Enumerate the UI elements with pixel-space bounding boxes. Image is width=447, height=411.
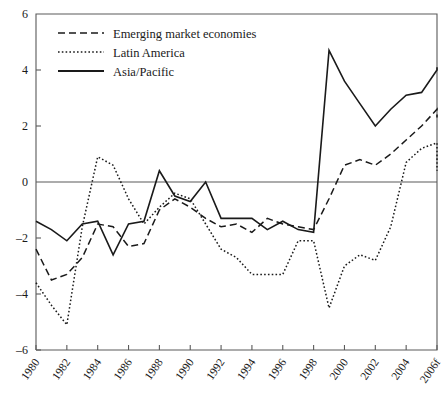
series-line-1 [36,109,437,280]
legend-label-3: Asia/Pacific [113,65,175,79]
y-tick-label: 0 [22,175,28,189]
x-tick-label: 2002 [358,356,381,382]
x-tick-label: 1998 [296,356,319,382]
x-tick-label: 1986 [111,356,134,382]
y-tick-label: 2 [22,119,28,133]
x-tick-label: 1988 [142,356,165,382]
data-series-group [36,50,437,324]
x-tick-label: 2006f [417,356,442,385]
x-tick-label: 2000 [327,356,350,382]
chart-figure: 6420–2–4–6 19801982198419861988199019921… [0,0,447,411]
y-tick-label: 4 [22,63,28,77]
chart-legend: Emerging market economiesLatin AmericaAs… [58,27,257,79]
legend-label-1: Emerging market economies [113,27,257,41]
y-tick-label: –2 [15,231,28,245]
x-tick-label: 1984 [80,356,103,382]
x-tick-label: 1980 [19,356,42,382]
line-chart-svg: 6420–2–4–6 19801982198419861988199019921… [0,0,447,411]
legend-label-2: Latin America [113,46,185,60]
x-tick-label: 1982 [49,356,72,382]
x-tick-label: 2004 [389,356,412,382]
x-tick-label: 1992 [204,356,227,382]
y-tick-label: –4 [15,287,28,301]
y-tick-label: 6 [22,7,28,21]
x-tick-label: 1990 [173,356,196,382]
x-tick-label: 1994 [235,356,258,382]
series-line-2 [36,143,437,325]
y-tick-label: –6 [15,343,28,357]
x-axis-ticks: 1980198219841986198819901992199419961998… [19,345,443,385]
x-tick-label: 1996 [265,356,288,382]
